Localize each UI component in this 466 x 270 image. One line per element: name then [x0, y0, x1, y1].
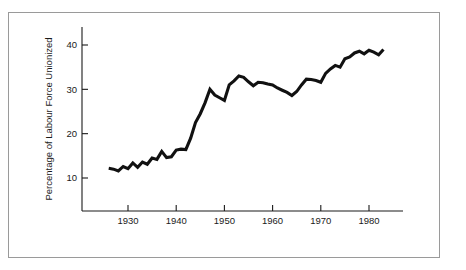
x-tick-label-1930: 1930 [117, 215, 138, 226]
x-tick-label-1960: 1960 [262, 215, 283, 226]
x-tick-label-1940: 1940 [166, 215, 187, 226]
x-tick-label-1970: 1970 [310, 215, 331, 226]
y-tick-label-20: 20 [66, 128, 77, 139]
chart-figure: 10203040193019401950196019701980Percenta… [0, 0, 466, 270]
x-tick-label-1950: 1950 [214, 215, 235, 226]
line-chart: 10203040193019401950196019701980Percenta… [0, 0, 466, 270]
x-tick-label-1980: 1980 [358, 215, 379, 226]
y-tick-label-10: 10 [66, 172, 77, 183]
y-tick-label-40: 40 [66, 39, 77, 50]
data-series-line [109, 49, 384, 170]
y-axis-title: Percentage of Labour Force Unionized [43, 37, 54, 200]
y-tick-label-30: 30 [66, 84, 77, 95]
